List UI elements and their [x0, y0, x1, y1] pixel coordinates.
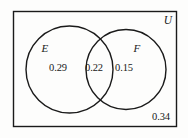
venn-diagram: U E F 0.29 0.22 0.15 0.34 — [0, 0, 188, 138]
region-value-intersection: 0.22 — [85, 63, 103, 74]
region-value-f-only: 0.15 — [115, 63, 133, 74]
region-value-e-only: 0.29 — [49, 63, 67, 74]
region-value-neither: 0.34 — [152, 112, 170, 123]
universe-label: U — [164, 15, 173, 27]
set-e-label: E — [42, 43, 49, 54]
set-f-label: F — [134, 43, 141, 54]
